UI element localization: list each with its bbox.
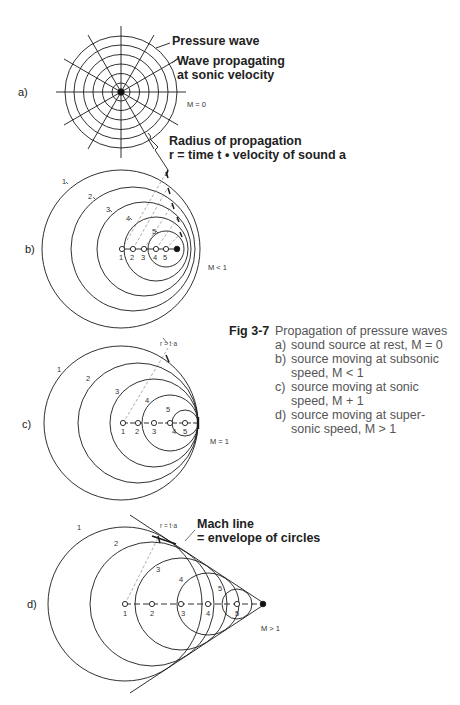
radius-label-line1: Radius of propagation	[169, 135, 302, 148]
panel-a-mach: M = 0	[187, 101, 206, 109]
caption-b-text: source moving at subsonic	[291, 352, 439, 366]
caption-b-letter: b)	[275, 352, 291, 366]
pressure-wave-label: Pressure wave	[172, 35, 260, 48]
b-circle-label-1: 1	[62, 178, 66, 186]
c-circle-label-4: 4	[145, 397, 149, 405]
mach-line-label-2: = envelope of circles	[197, 532, 320, 545]
panel-b-mach: M < 1	[208, 264, 227, 272]
c-point-label-5: 5	[183, 428, 187, 436]
caption-d-text-2: sonic speed, M > 1	[229, 422, 447, 436]
caption-b-text-2: speed, M < 1	[229, 366, 447, 380]
panel-c-radius-label: r = t·a	[160, 341, 177, 348]
b-circle-label-5: 5	[152, 228, 156, 236]
caption-d-letter: d)	[275, 408, 291, 422]
b-point-label-1: 1	[119, 254, 123, 262]
d-circle-label-4: 4	[179, 576, 183, 584]
c-circle-label-5: 5	[166, 406, 170, 414]
propagating-label-line2: at sonic velocity	[177, 69, 274, 82]
d-circle-label-3: 3	[156, 566, 160, 574]
c-point-label-3: 3	[152, 428, 156, 436]
b-point-label-2: 2	[130, 254, 134, 262]
c-circle-label-2: 2	[86, 375, 90, 383]
panel-d-mach: M > 1	[261, 625, 280, 633]
caption-c-text-2: speed, M + 1	[229, 394, 447, 408]
mach-line-label-1: Mach line	[197, 518, 254, 531]
figure-number: Fig 3-7	[229, 324, 275, 338]
d-circle-label-5: 5	[218, 585, 222, 593]
b-circle-label-4: 4	[126, 215, 130, 223]
b-point-label-3: 3	[141, 254, 145, 262]
c-circle-label-1: 1	[57, 366, 61, 374]
c-circle-label-3: 3	[115, 388, 119, 396]
panel-c-label: c)	[22, 419, 31, 430]
b-point-label-5: 5	[163, 254, 167, 262]
d-circle-label-2: 2	[114, 540, 118, 548]
caption-c-letter: c)	[275, 380, 291, 394]
d-point-label-1: 1	[123, 610, 127, 618]
c-point-label-4: 4	[172, 428, 176, 436]
d-circle-label-1: 1	[77, 524, 81, 532]
radius-label-line2: r = time t • velocity of sound a	[169, 149, 346, 162]
d-point-label-5: 5	[235, 610, 239, 618]
caption-a-letter: a)	[275, 338, 291, 352]
d-point-label-2: 2	[150, 610, 154, 618]
panel-d-radius-label: r = t·a	[160, 523, 177, 530]
caption-d-text: source moving at super-	[291, 408, 425, 422]
panel-c-mach: M = 1	[210, 438, 229, 446]
figure-title: Propagation of pressure waves	[275, 324, 447, 338]
panel-a-label: a)	[18, 87, 28, 98]
d-point-label-3: 3	[181, 610, 185, 618]
panel-d-label: d)	[27, 599, 37, 610]
caption-a-text: sound source at rest, M = 0	[291, 338, 443, 352]
b-point-label-4: 4	[153, 254, 157, 262]
panel-b-label: b)	[25, 244, 35, 255]
caption-c-text: source moving at sonic	[291, 380, 419, 394]
b-circle-label-2: 2	[88, 193, 92, 201]
figure-caption: Fig 3-7Propagation of pressure waves a)s…	[229, 324, 447, 436]
c-point-label-2: 2	[135, 428, 139, 436]
d-point-label-4: 4	[206, 610, 210, 618]
propagating-label-line1: Wave propagating	[177, 55, 285, 68]
c-point-label-1: 1	[121, 428, 125, 436]
b-circle-label-3: 3	[106, 206, 110, 214]
